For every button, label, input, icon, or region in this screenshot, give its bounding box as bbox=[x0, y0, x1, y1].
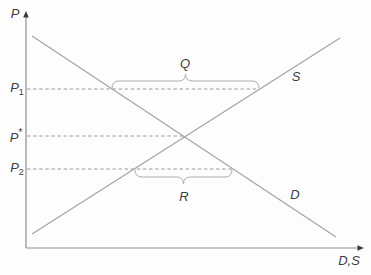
shortage-brace-label: R bbox=[179, 190, 188, 203]
r-brace bbox=[135, 170, 232, 184]
price-label-p1-subscript: 1 bbox=[19, 87, 24, 97]
y-axis-arrowhead-icon bbox=[23, 11, 29, 18]
y-axis-label: P bbox=[11, 7, 20, 20]
y-axis-label-text: P bbox=[11, 6, 20, 21]
diagram-canvas bbox=[0, 0, 371, 275]
price-label-p2-subscript: 2 bbox=[19, 167, 24, 177]
supply-demand-diagram: P D,S S D Q R P1 P* P2 bbox=[0, 0, 371, 275]
price-label-p1: P1 bbox=[10, 81, 24, 98]
price-label-p-star: P* bbox=[10, 128, 23, 143]
price-label-p2-main: P bbox=[10, 160, 19, 175]
surplus-brace-label-text: Q bbox=[180, 56, 190, 71]
supply-curve-label-text: S bbox=[292, 69, 301, 84]
price-label-p1-main: P bbox=[10, 80, 19, 95]
x-axis-label-text: D,S bbox=[338, 253, 360, 268]
supply-curve-label: S bbox=[292, 70, 301, 83]
x-axis-label: D,S bbox=[338, 254, 360, 267]
demand-curve-label: D bbox=[290, 188, 299, 201]
price-label-p-star-superscript: * bbox=[18, 127, 22, 138]
price-label-p2: P2 bbox=[10, 161, 24, 178]
price-label-p-star-main: P bbox=[10, 130, 19, 145]
shortage-brace-label-text: R bbox=[179, 189, 188, 204]
x-axis-arrowhead-icon bbox=[358, 245, 365, 251]
surplus-brace-label: Q bbox=[180, 57, 190, 70]
q-brace bbox=[112, 74, 259, 88]
demand-curve-label-text: D bbox=[290, 187, 299, 202]
